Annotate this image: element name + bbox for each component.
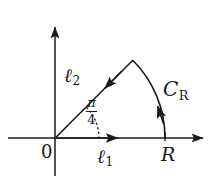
angle-denominator: 4 xyxy=(86,113,96,127)
label-origin-zero: 0 xyxy=(41,143,52,161)
label-segment-l2-symbol: ℓ xyxy=(64,64,72,86)
label-segment-l1: ℓ1 xyxy=(97,147,113,169)
label-segment-l2: ℓ2 xyxy=(64,66,80,88)
label-segment-l1-symbol: ℓ xyxy=(97,145,105,167)
angle-numerator: π xyxy=(86,96,97,110)
label-radius-r: R xyxy=(161,145,175,164)
label-angle-pi-over-4: π 4 xyxy=(86,96,97,126)
label-arc-cr-symbol: C xyxy=(163,77,178,101)
label-arc-cr: CR xyxy=(163,79,188,102)
segment-l2-direction-arrow xyxy=(105,71,122,89)
label-arc-cr-subscript: R xyxy=(179,88,189,103)
arc-cr xyxy=(133,60,165,138)
label-segment-l2-subscript: 2 xyxy=(72,74,80,88)
label-segment-l1-subscript: 1 xyxy=(105,155,113,169)
contour-diagram-figure: ℓ2 ℓ1 CR R 0 π 4 xyxy=(0,0,215,176)
